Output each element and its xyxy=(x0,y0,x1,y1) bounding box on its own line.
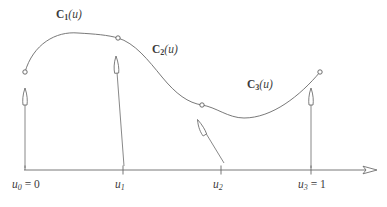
axis-tick-label-u1-subscript: 1 xyxy=(121,183,125,192)
axis-tick-label-u0-equals: = 0 xyxy=(22,178,40,190)
curve-label-c1-argument: (u) xyxy=(68,8,81,20)
tangent-arrowhead-u3-icon xyxy=(309,88,314,105)
figure-graphics xyxy=(0,0,387,207)
curve-label-c1: C1(u) xyxy=(56,9,82,22)
curve-segment-c1 xyxy=(25,33,118,72)
curve-label-c2: C2(u) xyxy=(152,44,178,57)
tangent-vector-u0 xyxy=(23,88,28,168)
axis-tick-label-u2-subscript: 2 xyxy=(219,183,223,192)
tangent-vector-u2 xyxy=(198,120,225,164)
axis-tick-label-u3-equals: = 1 xyxy=(308,178,326,190)
axis-tick-label-u2: u2 xyxy=(213,179,223,192)
tangent-arrowhead-u1-icon xyxy=(114,56,119,73)
tangent-vector-u3 xyxy=(309,88,314,168)
tangent-shaft-u1 xyxy=(116,64,124,166)
figure-canvas: C1(u) C2(u) C3(u) u0 = 0 u1 u2 u3 = 1 xyxy=(0,0,387,207)
axis-tick-label-u0: u0 = 0 xyxy=(12,179,40,192)
tangent-arrowhead-u2-icon xyxy=(198,120,207,137)
axis-tick-label-u3: u3 = 1 xyxy=(298,179,326,192)
curve-label-c3: C3(u) xyxy=(247,79,273,92)
knot-point-u2 xyxy=(200,103,204,107)
knot-point-u1 xyxy=(116,36,120,40)
knot-point-u3 xyxy=(318,70,322,74)
tangent-vector-u1 xyxy=(114,56,124,166)
tangent-arrowhead-u0-icon xyxy=(23,88,28,105)
axis-tick-label-u1: u1 xyxy=(115,179,125,192)
knot-point-u0 xyxy=(23,70,27,74)
parameter-axis xyxy=(24,166,377,174)
curve-label-c3-argument: (u) xyxy=(259,78,272,90)
curve-label-c2-argument: (u) xyxy=(164,43,177,55)
